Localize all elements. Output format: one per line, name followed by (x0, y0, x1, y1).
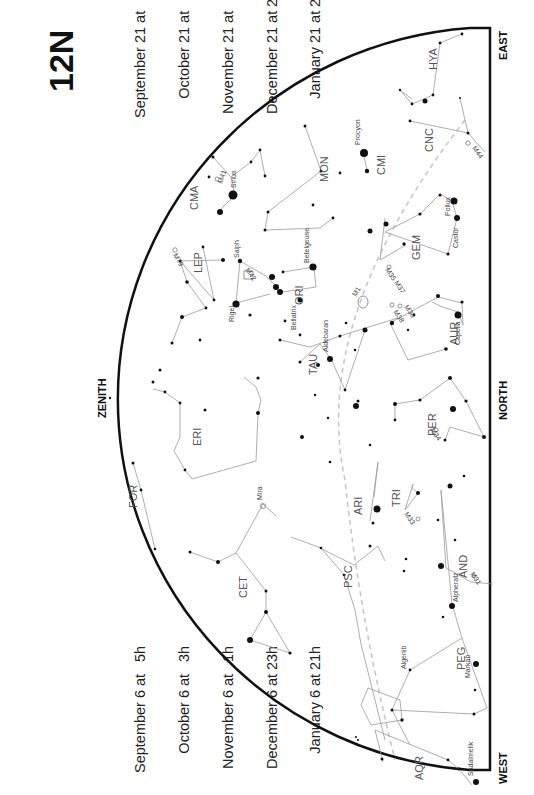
label-m33: M33 (403, 511, 417, 526)
label-tau: TAU (307, 354, 319, 375)
label-aldebaran: Aldebaran (322, 320, 329, 352)
label-cet: CET (237, 576, 249, 598)
label-algenib: Algenib (400, 646, 408, 669)
label-m38: M38 (392, 309, 406, 324)
label-pollux: Pollux (444, 196, 451, 216)
label-ori: ORI (293, 285, 305, 305)
label-mon: MON (318, 156, 330, 182)
label-lep: LEP (192, 252, 204, 273)
star-chart: HYA CNC CMI MON CMA GEM LEP ORI AUR TAU … (0, 0, 534, 795)
label-procyon: Procyon (354, 119, 362, 145)
direction-west: WEST (497, 752, 509, 784)
label-markab: Markab (464, 655, 471, 678)
label-for: FOR (127, 485, 139, 508)
constellation-labels: HYA CNC CMI MON CMA GEM LEP ORI AUR TAU … (127, 48, 469, 780)
deep-sky-objects (173, 141, 476, 578)
label-castor: Castor (452, 227, 459, 248)
label-mira: Mira (256, 486, 263, 500)
label-hya: HYA (427, 48, 439, 70)
label-sadalmelik: Sadalmelik (467, 741, 474, 776)
label-rigel: Rigel (228, 306, 236, 322)
label-cmi: CMI (375, 155, 387, 175)
label-saiph: Saiph (233, 240, 241, 258)
label-betelgeuse: Betelgeuse (303, 228, 311, 263)
star-labels: Procyon Sirius Pollux Castor Betelgeuse … (228, 119, 474, 776)
label-m35: M35 M37 (384, 267, 407, 295)
label-gem: GEM (410, 235, 422, 260)
label-cma: CMA (188, 185, 200, 210)
label-psc: PSC (342, 565, 354, 588)
label-eri: ERI (191, 428, 203, 446)
label-m42: M42 (244, 267, 258, 282)
label-bellatrix: Bellatrix (290, 305, 297, 330)
label-m41: M41 (216, 169, 227, 184)
label-m31: M31 (469, 571, 483, 586)
label-sirius: Sirius (230, 170, 237, 188)
label-m1: M1 (351, 285, 362, 297)
label-cnc: CNC (423, 128, 435, 152)
direction-zenith: ZENITH (96, 378, 108, 418)
direction-east: EAST (497, 30, 509, 60)
direction-north: NORTH (497, 381, 509, 420)
constellation-lines (133, 34, 493, 785)
label-aqr: AQR (413, 756, 425, 780)
label-ari: ARI (352, 497, 364, 515)
label-alpheratz: Alpheratz (452, 572, 460, 602)
label-capella: Capella (454, 321, 462, 345)
label-tri: TRI (390, 489, 402, 507)
label-m44: M44 (471, 145, 485, 160)
label-m36: M36 (403, 304, 417, 319)
